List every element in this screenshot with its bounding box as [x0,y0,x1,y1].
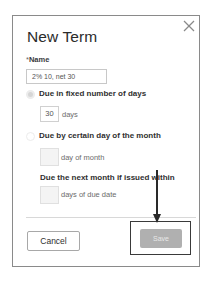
name-input[interactable]: 2% 10, net 30 [26,69,107,84]
dialog-title: New Term [27,28,97,46]
save-button[interactable]: Save [140,229,182,248]
day-of-month-input[interactable] [40,148,59,166]
radio-fixed-days[interactable] [26,90,35,99]
next-month-unit: days of due date [61,190,116,199]
fixed-days-input[interactable]: 30 [40,106,59,122]
radio-day-of-month[interactable] [26,132,35,141]
next-month-days-input[interactable] [40,186,59,204]
name-label-text: Name [29,55,49,64]
day-of-month-unit: day of month [61,153,104,162]
option-day-of-month-label: Due by certain day of the month [39,131,161,140]
arrow-down-icon [152,170,162,224]
fixed-days-unit: days [62,110,78,119]
name-label: *Name [26,55,49,64]
cancel-button[interactable]: Cancel [27,231,80,251]
footer-divider [26,217,196,218]
close-icon[interactable] [183,20,195,32]
option-fixed-days-label: Due in fixed number of days [39,89,146,98]
